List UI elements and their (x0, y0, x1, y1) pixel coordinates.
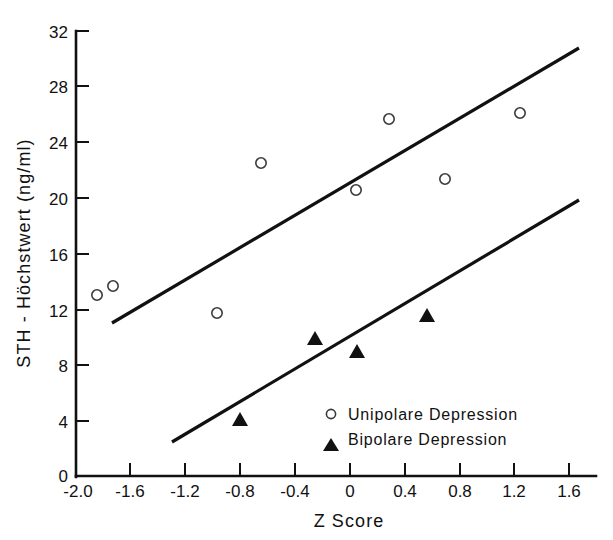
y-tick-label: 20 (49, 190, 68, 209)
x-tick-label: -0.8 (225, 482, 254, 501)
y-tick-label: 32 (49, 23, 68, 42)
x-tick-label: -1.2 (170, 482, 199, 501)
legend-marker-open-circle (326, 409, 335, 418)
data-point (307, 331, 323, 345)
legend-label-unipolar: Unipolare Depression (348, 406, 518, 423)
scatter-plot: 32 28 24 20 16 12 8 4 0 -2.0 -1.6 -1.2 (0, 0, 613, 540)
y-tick-label: 24 (49, 134, 68, 153)
data-point (440, 174, 450, 184)
data-point (349, 344, 365, 358)
y-tick-label: 28 (49, 78, 68, 97)
y-tick-label: 16 (49, 246, 68, 265)
unipolar-regression-line (112, 48, 579, 323)
data-point (92, 290, 102, 300)
x-axis-title: Z Score (314, 511, 385, 531)
y-axis-ticks (76, 31, 89, 421)
x-tick-label: 0.4 (393, 482, 417, 501)
data-point (351, 185, 361, 195)
x-axis-tick-labels: -2.0 -1.6 -1.2 -0.8 -0.4 0 0.4 0.8 1.2 1… (63, 482, 580, 501)
y-axis-tick-labels: 32 28 24 20 16 12 8 4 0 (49, 23, 68, 486)
y-tick-label: 4 (59, 413, 68, 432)
y-tick-label: 8 (59, 357, 68, 376)
x-tick-label: -0.4 (280, 482, 309, 501)
x-tick-label: 0.8 (448, 482, 472, 501)
data-point (232, 412, 248, 426)
data-point (419, 308, 435, 322)
x-tick-label: 1.6 (557, 482, 581, 501)
data-point (108, 281, 118, 291)
data-point (384, 114, 394, 124)
x-tick-label: -1.6 (115, 482, 144, 501)
y-tick-label: 12 (49, 302, 68, 321)
data-point (256, 158, 266, 168)
legend-marker-filled-triangle (323, 438, 339, 451)
y-axis-title: STH - Höchstwert (ng/ml) (14, 138, 34, 367)
data-point (212, 308, 222, 318)
chart-figure: 32 28 24 20 16 12 8 4 0 -2.0 -1.6 -1.2 (0, 0, 613, 540)
x-tick-label: 1.2 (502, 482, 526, 501)
unipolar-series-points (92, 108, 525, 318)
data-point (515, 108, 525, 118)
x-axis-ticks (130, 463, 569, 476)
x-tick-label: 0 (345, 482, 354, 501)
x-tick-label: -2.0 (63, 482, 92, 501)
chart-legend: Unipolare Depression Bipolare Depression (323, 406, 518, 451)
legend-label-bipolar: Bipolare Depression (348, 431, 507, 448)
